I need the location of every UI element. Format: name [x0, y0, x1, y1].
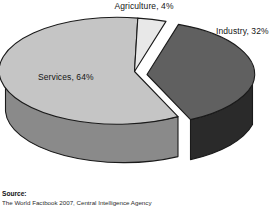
source-text: The World Factbook 2007, Central Intelli… [2, 199, 278, 207]
slice-label-services: Services, 64% [38, 72, 94, 82]
source-block: Source: The World Factbook 2007, Central… [2, 190, 278, 207]
slice-label-industry: Industry, 32% [216, 26, 269, 36]
pie-chart-figure: Agriculture, 4% Industry, 32% Services, … [0, 0, 280, 209]
source-heading: Source: [2, 190, 278, 198]
slice-label-agriculture: Agriculture, 4% [96, 1, 192, 11]
